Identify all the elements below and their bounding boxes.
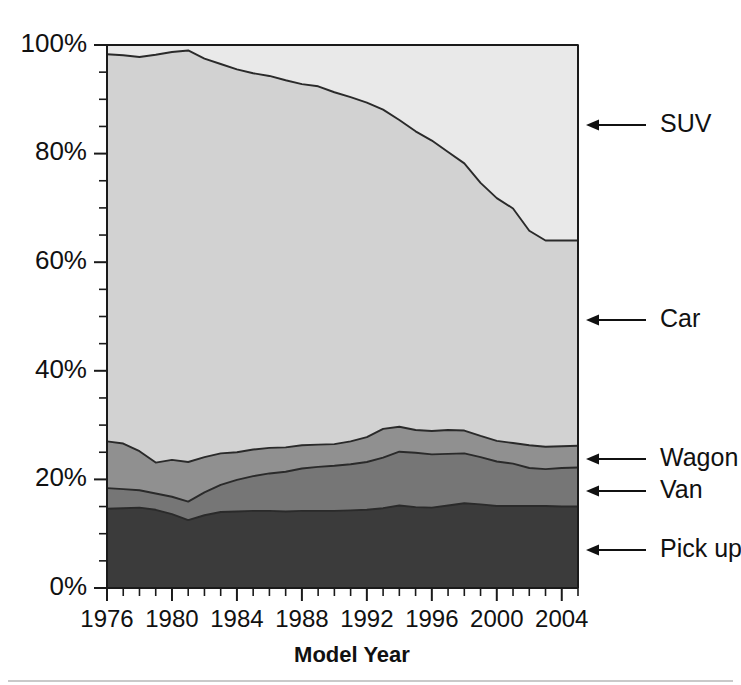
x-axis-tick-label: 2004 [535,605,588,632]
callout-label: Pick up [660,534,741,562]
y-axis-tick-label: 80% [35,136,87,166]
x-axis-tick-label: 1996 [405,605,458,632]
callout-label: SUV [660,109,712,137]
x-axis-tick-label: 1984 [210,605,263,632]
callout-label: Wagon [660,443,738,471]
x-axis-tick-label: 2000 [470,605,523,632]
callout-label: Van [660,475,703,503]
x-axis-tick-label: 1988 [275,605,328,632]
y-axis-tick-label: 40% [35,354,87,384]
y-axis-tick-label: 100% [21,28,88,58]
y-axis-tick-label: 60% [35,245,87,275]
x-axis-tick-label: 1980 [145,605,198,632]
x-axis-tick-label: 1992 [340,605,393,632]
x-axis-title: Model Year [294,642,410,667]
stacked-area-chart: 0%20%40%60%80%100% 197619801984198819921… [0,0,741,685]
y-axis-tick-label: 20% [35,462,87,492]
y-axis-tick-label: 0% [49,571,87,601]
chart-figure: 0%20%40%60%80%100% 197619801984198819921… [0,0,741,685]
callout-label: Car [660,304,700,332]
x-axis-tick-label: 1976 [80,605,133,632]
